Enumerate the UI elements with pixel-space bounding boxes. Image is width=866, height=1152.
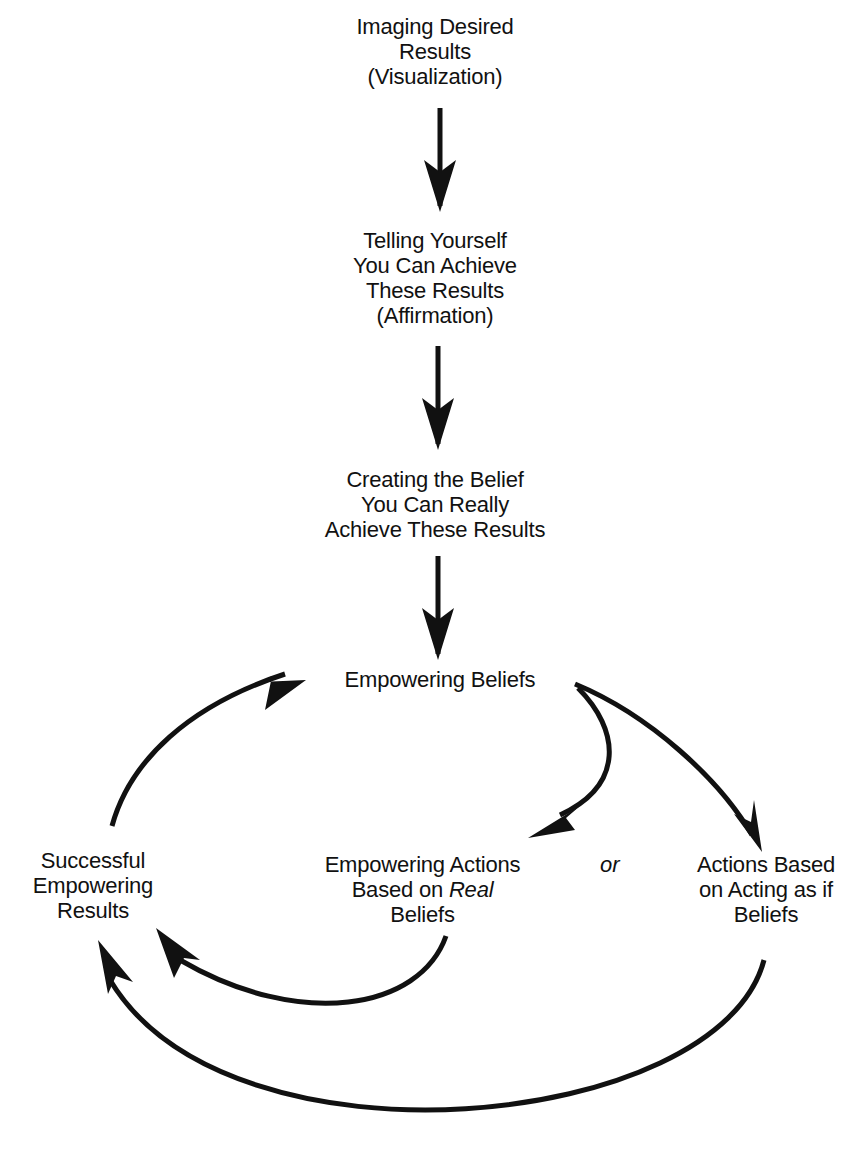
node-belief-creation: Creating the Belief You Can Really Achie… [270,467,600,542]
node-empowering-actions-line-3: Beliefs [280,902,565,927]
node-empowering-beliefs: Empowering Beliefs [300,667,580,692]
node-visualization-line-3: (Visualization) [290,64,580,89]
or-connector-label: or [600,852,620,878]
node-acting-as-if-line-1: Actions Based [668,852,864,877]
node-successful-results-line-1: Successful [8,848,178,873]
node-acting-as-if-line-2: on Acting as if [668,877,864,902]
node-acting-as-if: Actions Based on Acting as if Beliefs [668,852,864,927]
arrow-belief-to-empowering-beliefs [422,556,454,660]
node-empowering-actions: Empowering Actions Based on Real Beliefs [280,852,565,927]
node-acting-as-if-line-3: Beliefs [668,902,864,927]
node-empowering-actions-line-2: Based on Real [280,877,565,902]
arrow-visualization-to-affirmation [424,108,456,212]
node-visualization-line-1: Imaging Desired [290,14,580,39]
node-visualization: Imaging Desired Results (Visualization) [290,14,580,89]
arrows-layer [0,0,866,1152]
arrow-affirmation-to-belief [422,346,454,450]
node-affirmation-line-1: Telling Yourself [290,228,580,253]
node-empowering-beliefs-line-1: Empowering Beliefs [300,667,580,692]
arrow-beliefs-to-empowering-actions [528,688,609,838]
node-empowering-actions-line-1: Empowering Actions [280,852,565,877]
node-affirmation: Telling Yourself You Can Achieve These R… [290,228,580,328]
node-belief-creation-line-3: Achieve These Results [270,517,600,542]
node-affirmation-line-4: (Affirmation) [290,303,580,328]
arrow-beliefs-to-acting-as-if [575,684,762,852]
node-affirmation-line-3: These Results [290,278,580,303]
node-empowering-actions-line-2-italic: Real [449,877,493,902]
node-affirmation-line-2: You Can Achieve [290,253,580,278]
arrow-actions-to-results [156,928,446,1003]
node-belief-creation-line-1: Creating the Belief [270,467,600,492]
node-empowering-actions-line-2-prefix: Based on [352,877,449,902]
node-successful-results: Successful Empowering Results [8,848,178,923]
node-belief-creation-line-2: You Can Really [270,492,600,517]
node-successful-results-line-2: Empowering [8,873,178,898]
node-successful-results-line-3: Results [8,898,178,923]
arrow-results-to-beliefs [112,674,306,826]
node-visualization-line-2: Results [290,39,580,64]
